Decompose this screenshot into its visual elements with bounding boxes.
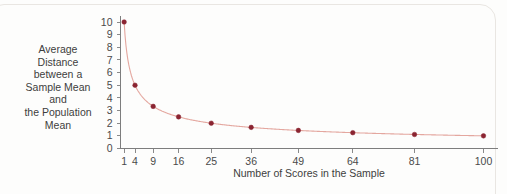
y-tick-label: 1 <box>107 129 113 141</box>
data-point <box>176 115 181 120</box>
x-tick-label: 64 <box>347 155 359 167</box>
x-tick-label: 16 <box>173 155 185 167</box>
y-tick-label: 3 <box>107 104 113 116</box>
y-tick-label: 7 <box>107 54 113 66</box>
x-tick-label: 4 <box>132 155 138 167</box>
x-tick-label: 1 <box>121 155 127 167</box>
y-tick-label: 5 <box>107 79 113 91</box>
y-tick-label: 8 <box>107 41 113 53</box>
data-point <box>296 128 301 133</box>
y-tick-label: 6 <box>107 66 113 78</box>
y-axis-tick-labels: 012345678910 <box>101 16 113 155</box>
x-axis-title: Number of Scores in the Sample <box>120 167 498 179</box>
x-tick-label: 9 <box>150 155 156 167</box>
plot-area: 012345678910 149162536496481100 <box>0 0 507 194</box>
data-point <box>209 121 214 126</box>
x-tick-label: 100 <box>475 155 493 167</box>
data-point <box>151 104 156 109</box>
y-tick-label: 0 <box>107 142 113 154</box>
y-tick-label: 4 <box>107 92 113 104</box>
data-point <box>351 130 356 135</box>
data-point <box>481 134 486 139</box>
y-tick-label: 9 <box>107 28 113 40</box>
data-point <box>249 125 254 130</box>
x-tick-label: 49 <box>293 155 305 167</box>
y-tick-label: 10 <box>101 16 113 28</box>
data-point <box>133 83 138 88</box>
x-axis-ticks <box>124 149 483 153</box>
x-tick-label: 81 <box>409 155 421 167</box>
x-axis-tick-labels: 149162536496481100 <box>121 155 492 167</box>
data-series-points <box>122 20 486 138</box>
data-point <box>122 20 127 25</box>
x-tick-label: 36 <box>245 155 257 167</box>
y-tick-label: 2 <box>107 117 113 129</box>
data-point <box>412 132 417 137</box>
x-tick-label: 25 <box>205 155 217 167</box>
chart-figure: Average Distance between a Sample Mean a… <box>0 0 507 194</box>
y-axis-ticks <box>117 22 121 149</box>
